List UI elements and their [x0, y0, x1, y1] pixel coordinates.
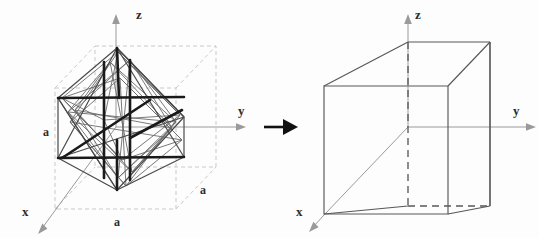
cube-edge-bottom-left-diagonal: [324, 206, 408, 214]
right-x-axis-label: x: [296, 205, 303, 218]
right-z-axis-arrowhead: [404, 14, 412, 24]
right-x-axis-arrowhead: [309, 222, 319, 232]
left-dimension-label-a-left: a: [43, 126, 49, 138]
left-z-axis-arrowhead: [112, 14, 120, 24]
right-x-axis-back: [324, 127, 408, 215]
right-y-axis-arrowhead: [526, 123, 536, 131]
left-dimension-label-a-right: a: [200, 184, 206, 196]
figure-root: z y x a a a z y x: [0, 0, 539, 238]
left-y-axis-arrowhead: [236, 123, 246, 131]
left-dimension-label-a-bottom: a: [114, 216, 120, 228]
transform-arrow-head: [283, 119, 298, 135]
right-panel-group: [309, 14, 536, 232]
right-y-axis-label: y: [513, 104, 520, 117]
cube-edge-back-top-left: [324, 42, 408, 86]
figure-canvas: [0, 0, 539, 238]
left-x-axis-label: x: [22, 205, 29, 218]
cube-edge-top-right-diagonal: [448, 42, 490, 86]
left-z-axis-label: z: [136, 8, 142, 21]
cube-edge-bottom-right-diagonal: [448, 206, 490, 214]
transform-arrow-group: [264, 119, 298, 135]
left-x-axis-arrowhead: [38, 224, 47, 234]
left-y-axis-label: y: [238, 104, 245, 117]
right-z-axis-label: z: [415, 8, 421, 21]
right-axes: [309, 14, 536, 232]
left-panel-group: [38, 14, 246, 234]
